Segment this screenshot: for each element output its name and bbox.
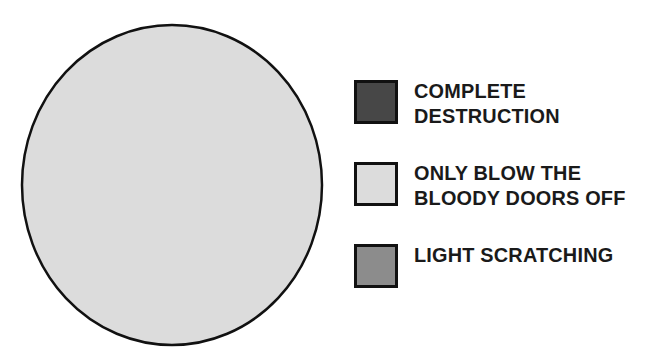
legend-item-only-blow-the-bloody-doors-off[interactable]: ONLY BLOW THE BLOODY DOORS OFF bbox=[354, 160, 672, 210]
legend-item-complete-destruction[interactable]: COMPLETE DESTRUCTION bbox=[354, 78, 672, 128]
legend: COMPLETE DESTRUCTION ONLY BLOW THE BLOOD… bbox=[354, 78, 672, 288]
pie-slice-only-blow-the-bloody-doors-off[interactable] bbox=[22, 25, 322, 345]
legend-label-complete-destruction: COMPLETE DESTRUCTION bbox=[414, 78, 560, 128]
pie-graphic bbox=[20, 23, 324, 347]
pie-svg bbox=[20, 23, 324, 347]
legend-swatch-icon-complete-destruction bbox=[354, 80, 398, 124]
legend-swatch-icon-light-scratching bbox=[354, 244, 398, 288]
legend-label-light-scratching: LIGHT SCRATCHING bbox=[414, 242, 613, 267]
legend-swatch-icon-only-blow-the-bloody-doors-off bbox=[354, 162, 398, 206]
chart-title: GOLD SHIPMENT HEIST bbox=[0, 0, 672, 4]
legend-item-light-scratching[interactable]: LIGHT SCRATCHING bbox=[354, 242, 672, 288]
legend-label-only-blow-the-bloody-doors-off: ONLY BLOW THE BLOODY DOORS OFF bbox=[414, 160, 626, 210]
pie-chart-figure: GOLD SHIPMENT HEIST COMPLETE DESTRUCTION… bbox=[0, 0, 672, 359]
